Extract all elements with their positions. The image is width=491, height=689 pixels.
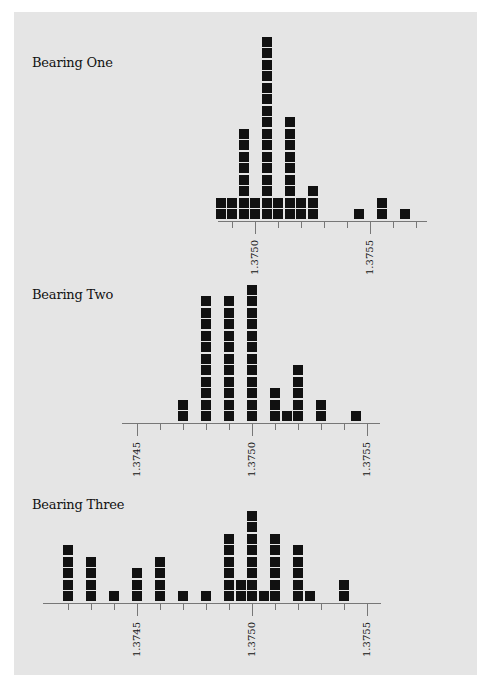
data-square (247, 285, 257, 295)
data-square (293, 411, 303, 421)
data-square (201, 400, 211, 410)
data-square (63, 591, 73, 601)
data-square (296, 198, 306, 208)
minor-tick (324, 222, 325, 228)
data-square (262, 83, 272, 93)
data-square (63, 568, 73, 578)
data-square (155, 591, 165, 601)
data-square (178, 411, 188, 421)
data-square (316, 411, 326, 421)
data-square (224, 534, 234, 544)
data-square (273, 198, 283, 208)
data-square (354, 209, 364, 219)
tick-label: 1.3750 (246, 442, 257, 477)
data-square (155, 580, 165, 590)
data-square (351, 411, 361, 421)
data-square (224, 308, 234, 318)
minor-tick (229, 604, 230, 610)
data-square (270, 400, 280, 410)
major-tick (252, 424, 253, 436)
data-square (239, 175, 249, 185)
data-square (224, 331, 234, 341)
data-square (247, 568, 257, 578)
data-square (86, 580, 96, 590)
data-square (285, 198, 295, 208)
data-square (239, 140, 249, 150)
data-square (259, 591, 269, 601)
data-square (270, 568, 280, 578)
minor-tick (298, 604, 299, 610)
data-square (239, 209, 249, 219)
data-square (239, 198, 249, 208)
data-square (285, 140, 295, 150)
chart-title: Bearing Three (32, 497, 124, 512)
data-square (201, 319, 211, 329)
chart-title: Bearing One (32, 55, 113, 70)
data-square (285, 152, 295, 162)
data-square (216, 198, 226, 208)
data-square (270, 388, 280, 398)
tick-label: 1.3750 (249, 240, 260, 275)
data-square (247, 522, 257, 532)
data-square (132, 591, 142, 601)
data-square (296, 209, 306, 219)
minor-tick (298, 424, 299, 430)
minor-tick (344, 424, 345, 430)
minor-tick (206, 604, 207, 610)
data-square (227, 209, 237, 219)
data-square (400, 209, 410, 219)
data-square (293, 365, 303, 375)
data-square (239, 186, 249, 196)
data-square (270, 580, 280, 590)
data-square (316, 400, 326, 410)
data-square (247, 580, 257, 590)
data-square (377, 198, 387, 208)
data-square (377, 209, 387, 219)
data-square (262, 175, 272, 185)
data-square (247, 354, 257, 364)
data-square (236, 580, 246, 590)
data-square (270, 545, 280, 555)
data-square (293, 580, 303, 590)
data-square (224, 296, 234, 306)
major-tick (252, 604, 253, 616)
data-square (262, 198, 272, 208)
data-square (201, 296, 211, 306)
minor-tick (68, 604, 69, 610)
data-square (262, 94, 272, 104)
data-square (308, 209, 318, 219)
data-square (262, 129, 272, 139)
data-square (224, 400, 234, 410)
data-square (109, 591, 119, 601)
data-square (63, 545, 73, 555)
data-square (262, 186, 272, 196)
data-square (201, 377, 211, 387)
data-square (285, 117, 295, 127)
minor-tick (160, 604, 161, 610)
data-square (239, 163, 249, 173)
data-square (293, 400, 303, 410)
data-square (262, 117, 272, 127)
major-tick (367, 424, 368, 436)
data-square (270, 557, 280, 567)
minor-tick (183, 424, 184, 430)
data-square (247, 534, 257, 544)
data-square (86, 591, 96, 601)
data-square (216, 209, 226, 219)
data-square (236, 591, 246, 601)
minor-tick (229, 424, 230, 430)
data-square (262, 60, 272, 70)
data-square (305, 591, 315, 601)
data-square (293, 568, 303, 578)
data-square (247, 400, 257, 410)
data-square (247, 511, 257, 521)
minor-tick (393, 222, 394, 228)
data-square (247, 411, 257, 421)
data-square (247, 296, 257, 306)
data-square (201, 331, 211, 341)
data-square (285, 175, 295, 185)
data-square (285, 209, 295, 219)
minor-tick (278, 222, 279, 228)
data-square (63, 557, 73, 567)
data-square (262, 71, 272, 81)
